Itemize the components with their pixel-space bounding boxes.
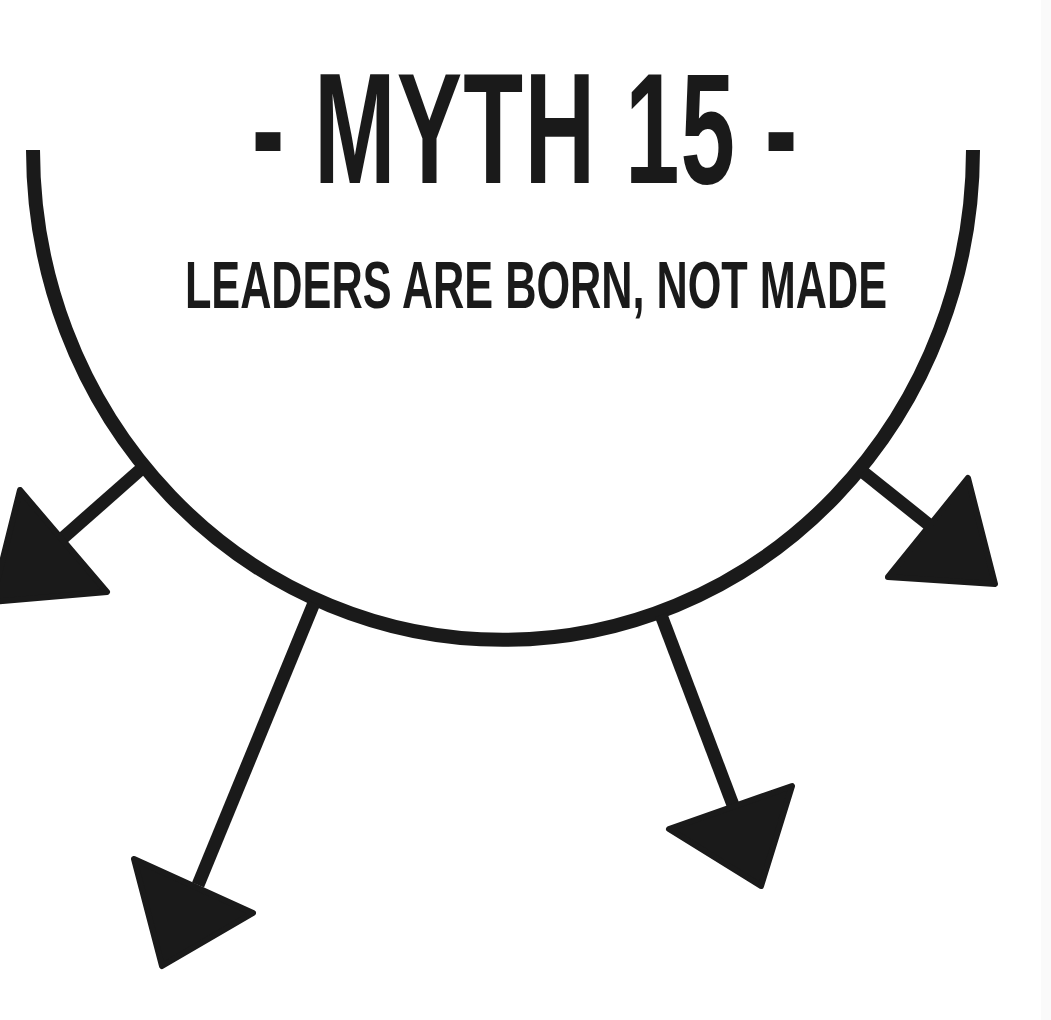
myth-title-text: - MYTH 15 - bbox=[252, 48, 799, 208]
arrow-far-right-icon bbox=[863, 472, 995, 584]
arrow-lower-left-icon bbox=[134, 603, 314, 966]
myth-subtitle-text: LEADERS ARE BORN, NOT MADE bbox=[185, 250, 887, 320]
semicircle-arc bbox=[33, 150, 973, 640]
myth-title: - MYTH 15 - bbox=[0, 48, 1051, 208]
myth-subtitle: LEADERS ARE BORN, NOT MADE bbox=[0, 250, 1051, 320]
arrow-lower-right-icon bbox=[661, 615, 792, 886]
arrow-far-left-icon bbox=[0, 470, 140, 602]
